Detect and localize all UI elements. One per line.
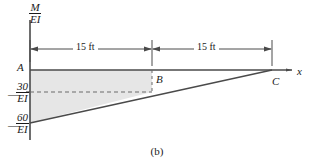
y-axis-label-denominator: EI xyxy=(29,13,41,25)
point-label-b: B xyxy=(156,74,163,85)
value-label-30: 30 EI xyxy=(16,81,29,104)
x-axis-label: x xyxy=(297,66,302,77)
value-60-numerator: 60 xyxy=(16,112,29,123)
mei-diagram-figure: M EI — 30 EI — 60 EI A B C x 15 ft 15 ft… xyxy=(0,0,314,166)
dim-arrow-left-start xyxy=(30,47,38,52)
dimension-label-left: 15 ft xyxy=(73,42,98,52)
point-label-c: C xyxy=(272,76,279,87)
value-label-60: 60 EI xyxy=(16,112,29,135)
value-30-denominator: EI xyxy=(16,92,29,104)
dim-arrow-left-end xyxy=(144,47,152,52)
y-axis-label-numerator: M xyxy=(29,2,41,13)
dimension-label-right: 15 ft xyxy=(194,42,219,52)
dim-arrow-right-end xyxy=(264,47,272,52)
point-label-a: A xyxy=(17,62,24,73)
figure-caption: (b) xyxy=(0,145,314,157)
dim-arrow-right-start xyxy=(152,47,160,52)
shaded-area xyxy=(30,70,152,123)
value-30-numerator: 30 xyxy=(16,81,29,92)
x-axis-arrow xyxy=(286,68,292,71)
value-60-denominator: EI xyxy=(16,123,29,135)
y-axis-label: M EI xyxy=(29,2,41,25)
